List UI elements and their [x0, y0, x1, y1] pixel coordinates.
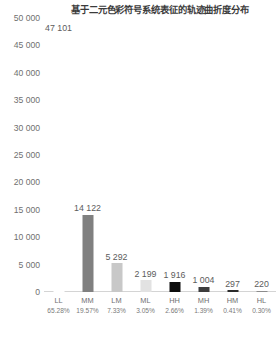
- x-axis-slot: HM0.41%: [218, 296, 247, 316]
- trajectory-tortuosity-bar-chart: 基于二元色彩符号系统表征的轨迹曲折度分布 50 00045 00040 0003…: [0, 0, 279, 338]
- y-axis-tick-label: 5 000: [18, 260, 40, 270]
- x-axis-slot: MM19.57%: [73, 296, 102, 316]
- y-axis-tick-label: 25 000: [14, 150, 40, 160]
- x-axis-slot: HL0.30%: [247, 296, 276, 316]
- bar-value-label: 14 122: [74, 203, 101, 213]
- x-axis-percent-label: 7.33%: [102, 306, 131, 316]
- bar-hh[interactable]: [169, 282, 180, 292]
- bar-ml[interactable]: [140, 280, 151, 292]
- bar-slot: 1 916: [160, 18, 189, 292]
- bar-value-label: 5 292: [105, 252, 127, 262]
- x-axis-percent-label: 1.39%: [189, 306, 218, 316]
- y-axis-tick-label: 20 000: [14, 177, 40, 187]
- bar-hl[interactable]: [256, 291, 267, 293]
- x-axis-percent-label: 0.41%: [218, 306, 247, 316]
- bar-lm[interactable]: [111, 263, 122, 292]
- y-axis-tick-label: 50 000: [14, 13, 40, 23]
- bar-slot: 1 004: [189, 18, 218, 292]
- x-axis-category-label: MH: [189, 296, 218, 306]
- x-axis-category-label: LL: [44, 296, 73, 306]
- bar-slot: 220: [247, 18, 276, 292]
- y-axis-tick-label: 15 000: [14, 205, 40, 215]
- chart-title: 基于二元色彩符号系统表征的轨迹曲折度分布: [44, 2, 276, 16]
- x-axis-slot: LM7.33%: [102, 296, 131, 316]
- x-axis-category-label: HL: [247, 296, 276, 306]
- bar-value-label: 220: [254, 279, 269, 289]
- x-axis: LL65.28%MM19.57%LM7.33%ML3.05%HH2.66%MH1…: [44, 296, 276, 338]
- x-axis-percent-label: 65.28%: [44, 306, 73, 316]
- y-axis-tick-label: 45 000: [14, 40, 40, 50]
- x-axis-percent-label: 19.57%: [73, 306, 102, 316]
- x-axis-slot: ML3.05%: [131, 296, 160, 316]
- x-axis-percent-label: 2.66%: [160, 306, 189, 316]
- x-axis-percent-label: 3.05%: [131, 306, 160, 316]
- bar-value-label: 2 199: [134, 269, 156, 279]
- bar-slot: 5 292: [102, 18, 131, 292]
- y-axis-tick-label: 35 000: [14, 95, 40, 105]
- bar-slot: 2 199: [131, 18, 160, 292]
- bar-value-label: 1 916: [163, 270, 185, 280]
- x-axis-slot: HH2.66%: [160, 296, 189, 316]
- bar-slot: 297: [218, 18, 247, 292]
- bar-slot: 14 122: [73, 18, 102, 292]
- y-axis-tick-label: 30 000: [14, 123, 40, 133]
- x-axis-category-label: ML: [131, 296, 160, 306]
- x-axis-percent-label: 0.30%: [247, 306, 276, 316]
- bar-ll[interactable]: [53, 35, 64, 292]
- bar-value-label: 1 004: [192, 275, 214, 285]
- y-axis-tick-label: 0: [35, 287, 40, 297]
- x-axis-slot: LL65.28%: [44, 296, 73, 316]
- bar-hm[interactable]: [227, 290, 238, 292]
- bar-value-label: 47 101: [45, 23, 72, 33]
- y-axis: 50 00045 00040 00035 00030 00025 00020 0…: [0, 18, 44, 292]
- x-axis-slot: MH1.39%: [189, 296, 218, 316]
- x-axis-category-label: MM: [73, 296, 102, 306]
- plot-area: 47 10114 1225 2922 1991 9161 004297220: [44, 18, 276, 292]
- bar-slot: 47 101: [44, 18, 73, 292]
- bar-value-label: 297: [225, 279, 240, 289]
- bar-mm[interactable]: [82, 215, 93, 292]
- x-axis-category-label: HM: [218, 296, 247, 306]
- x-axis-category-label: LM: [102, 296, 131, 306]
- y-axis-tick-label: 40 000: [14, 68, 40, 78]
- y-axis-tick-label: 10 000: [14, 232, 40, 242]
- x-axis-category-label: HH: [160, 296, 189, 306]
- bar-mh[interactable]: [198, 287, 209, 292]
